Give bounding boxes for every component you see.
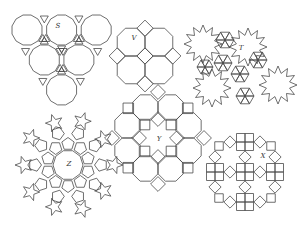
- square: [182, 162, 193, 173]
- square: [237, 202, 246, 211]
- pentagon: [82, 152, 94, 164]
- triangle: [58, 67, 66, 74]
- pentagon: [53, 190, 65, 202]
- square: [207, 164, 216, 173]
- figure-v-octagon-tiling: [109, 20, 181, 92]
- label-z: Z: [66, 160, 72, 168]
- triangle: [231, 66, 240, 74]
- triangle: [40, 37, 48, 44]
- triangle: [240, 66, 249, 74]
- triangle: [205, 60, 213, 67]
- triangle: [214, 55, 223, 63]
- triangle: [223, 63, 232, 71]
- diamond: [239, 151, 251, 163]
- diamond: [254, 166, 266, 178]
- dodecagon: [12, 15, 42, 45]
- triangle: [214, 63, 223, 71]
- square: [170, 131, 185, 146]
- square: [215, 172, 224, 181]
- square: [245, 172, 254, 181]
- triangle: [75, 37, 83, 44]
- diamond: [239, 181, 251, 193]
- five-point-star: [15, 156, 31, 173]
- triangle: [223, 55, 232, 63]
- triangle: [221, 32, 230, 40]
- square: [151, 150, 166, 165]
- tiling-diagram: S V T Z Y X: [0, 0, 301, 229]
- octagon: [115, 138, 140, 163]
- square: [137, 20, 153, 36]
- square: [215, 194, 224, 203]
- label-v: V: [131, 34, 137, 42]
- pentagon: [82, 166, 94, 178]
- dodecagon: [47, 15, 77, 45]
- triangle: [22, 49, 30, 56]
- five-point-star: [75, 113, 91, 130]
- square: [151, 112, 166, 127]
- square: [267, 164, 276, 173]
- triangle: [39, 78, 47, 85]
- five-point-star: [107, 156, 123, 173]
- square: [237, 134, 246, 143]
- five-point-star: [45, 115, 61, 132]
- square: [275, 164, 284, 173]
- square: [237, 194, 246, 203]
- square: [139, 146, 150, 157]
- octagon: [176, 113, 201, 138]
- label-t: T: [239, 44, 245, 52]
- square: [132, 131, 147, 146]
- triangle: [236, 66, 245, 74]
- triangle: [241, 88, 250, 96]
- triangle: [236, 88, 245, 96]
- square: [215, 164, 224, 173]
- diamond: [254, 136, 266, 148]
- pentagon: [42, 152, 54, 164]
- triangle: [245, 88, 254, 96]
- five-point-star: [45, 198, 61, 215]
- dodecagon: [47, 75, 77, 105]
- triangle: [58, 46, 66, 53]
- dodecagon: [81, 15, 111, 45]
- label-s: S: [56, 22, 61, 30]
- square: [137, 48, 153, 64]
- dodecagon: [64, 45, 94, 75]
- triangle: [240, 74, 249, 82]
- octagon: [158, 156, 183, 181]
- label-y: Y: [157, 135, 163, 143]
- square: [245, 164, 254, 173]
- triangle: [236, 96, 245, 104]
- diamond: [209, 151, 221, 163]
- triangle: [219, 55, 228, 63]
- square: [165, 48, 181, 64]
- diamond: [224, 136, 236, 148]
- square: [245, 202, 254, 211]
- triangle: [75, 16, 83, 23]
- pentagon: [72, 190, 84, 202]
- five-point-star: [24, 129, 40, 146]
- triangle: [241, 96, 250, 104]
- triangle: [40, 16, 48, 23]
- figure-x-square-ring-tiling: [207, 134, 284, 211]
- five-point-star: [24, 183, 40, 200]
- twelve-point-star: [259, 66, 297, 104]
- square: [207, 172, 216, 181]
- square: [245, 142, 254, 151]
- twelve-point-star: [193, 69, 231, 107]
- pentagon: [35, 139, 47, 151]
- five-point-star: [95, 131, 111, 148]
- figure-t-star-tiling: [184, 25, 297, 107]
- square: [267, 194, 276, 203]
- triangle: [245, 96, 254, 104]
- diamond: [254, 196, 266, 208]
- triangle: [216, 32, 225, 40]
- dodecagon: [29, 45, 59, 75]
- square: [215, 142, 224, 151]
- square: [237, 164, 246, 173]
- triangle: [94, 49, 102, 56]
- square: [275, 172, 284, 181]
- octagon: [133, 95, 158, 120]
- five-point-star: [95, 182, 111, 199]
- twelve-point-star: [184, 25, 222, 63]
- square: [123, 103, 134, 114]
- triangle: [216, 40, 225, 48]
